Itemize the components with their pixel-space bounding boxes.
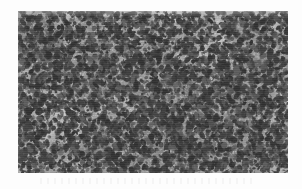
- compression-ghost-strip: [40, 178, 255, 184]
- micrograph-panel: [18, 11, 288, 173]
- micrograph-image: [18, 11, 288, 173]
- figure-page: [0, 0, 302, 189]
